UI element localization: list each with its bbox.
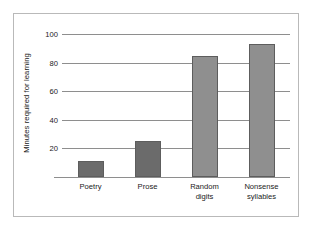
x-axis-label-line: digits xyxy=(176,192,233,202)
y-axis-title-container: Minutes required for learning xyxy=(19,28,33,178)
x-axis-label-line: Random xyxy=(176,182,233,192)
bar-nonsense-syllables xyxy=(249,44,275,177)
bar-prose xyxy=(135,141,161,177)
y-tick-label-20: 20 xyxy=(50,144,58,153)
x-axis-label-line: Nonsense xyxy=(233,182,290,192)
y-tick-label-40: 40 xyxy=(50,115,58,124)
x-axis-label-line: Poetry xyxy=(62,182,119,192)
gridline-100: 100 xyxy=(62,34,290,35)
y-axis-title: Minutes required for learning xyxy=(22,53,31,153)
bar-random-digits xyxy=(192,56,218,178)
y-tick-label-60: 60 xyxy=(50,87,58,96)
x-axis-label-poetry: Poetry xyxy=(62,182,119,192)
y-tick-label-80: 80 xyxy=(50,58,58,67)
x-axis-label-nonsense-syllables: Nonsensesyllables xyxy=(233,182,290,201)
x-axis-label-random-digits: Randomdigits xyxy=(176,182,233,201)
bar-chart-figure: Minutes required for learning 2040608010… xyxy=(0,0,313,230)
x-axis-label-prose: Prose xyxy=(119,182,176,192)
plot-area: 20406080100 PoetryProseRandomdigitsNonse… xyxy=(62,34,290,177)
y-tick-label-100: 100 xyxy=(45,30,58,39)
x-axis-label-line: syllables xyxy=(233,192,290,202)
x-axis-label-line: Prose xyxy=(119,182,176,192)
bar-poetry xyxy=(78,161,104,177)
x-axis-baseline xyxy=(54,177,290,178)
